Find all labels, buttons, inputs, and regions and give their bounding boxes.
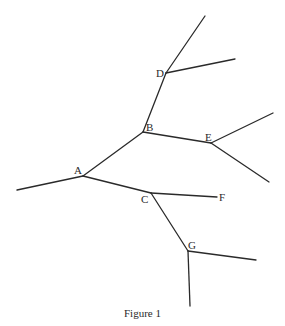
edge-C-G: [151, 193, 188, 251]
edge-leaf-A-left-A: [17, 176, 83, 190]
edge-E-leaf-E-upper: [211, 113, 273, 143]
node-label-E: E: [205, 131, 212, 143]
tree-edges: [17, 16, 273, 306]
figure-caption: Figure 1: [0, 307, 285, 319]
edge-D-leaf-D-right: [166, 59, 235, 73]
tree-diagram-canvas: ABCDEFG: [0, 0, 285, 326]
edge-A-C: [83, 176, 151, 193]
node-labels: ABCDEFG: [74, 67, 225, 251]
edge-C-F: [151, 193, 217, 197]
edge-E-leaf-E-lower: [211, 143, 269, 182]
edge-G-leaf-G-bottom: [188, 251, 190, 306]
node-label-G: G: [188, 239, 196, 251]
tree-diagram: ABCDEFG Figure 1: [0, 0, 285, 326]
node-label-B: B: [146, 121, 153, 133]
edge-D-leaf-D-top: [166, 16, 205, 73]
node-label-C: C: [141, 193, 148, 205]
edge-B-E: [143, 132, 211, 143]
edge-G-leaf-G-right: [188, 251, 256, 260]
node-label-A: A: [74, 164, 82, 176]
node-label-F: F: [219, 191, 225, 203]
edge-A-B: [83, 132, 143, 176]
node-label-D: D: [156, 67, 164, 79]
